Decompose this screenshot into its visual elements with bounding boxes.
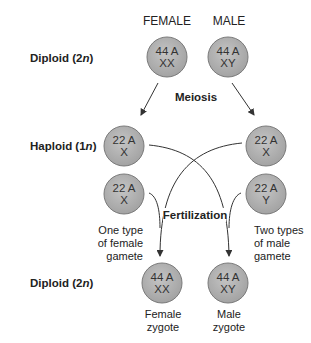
meiosis-label: Meiosis (175, 91, 217, 103)
svg-text:XX: XX (159, 57, 175, 69)
row-label-diploid-top: Diploid (2n) (30, 52, 93, 64)
fertilization-line-maley (229, 193, 241, 228)
cell-male-zygote: 44 A XY (208, 263, 248, 303)
svg-text:of female: of female (98, 237, 143, 249)
fertilization-label: Fertilization (163, 209, 228, 221)
svg-text:XY: XY (220, 283, 236, 295)
cell-female-gamete-1: 22 A X (104, 126, 144, 166)
svg-text:22 A: 22 A (112, 182, 135, 194)
svg-text:22 A: 22 A (254, 182, 277, 194)
svg-text:X: X (120, 194, 128, 206)
svg-text:One type: One type (98, 224, 143, 236)
svg-text:22 A: 22 A (254, 134, 277, 146)
note-male-gamete: Two types of male gamete (254, 224, 304, 262)
meiosis-arrow-male (232, 83, 254, 115)
svg-text:44 A: 44 A (155, 45, 178, 57)
svg-text:XX: XX (154, 283, 170, 295)
cell-male-parent: 44 A XY (208, 37, 248, 77)
fertilization-line-female2 (149, 193, 160, 228)
svg-text:X: X (262, 146, 270, 158)
fertilization-line-malex-to-female-zygote (160, 143, 242, 256)
svg-text:zygote: zygote (213, 321, 245, 333)
svg-text:X: X (120, 146, 128, 158)
cell-female-zygote: 44 A XX (142, 263, 182, 303)
svg-text:Two types: Two types (254, 224, 304, 236)
sex-determination-diagram: FEMALE MALE Diploid (2n) Haploid (1n) Di… (0, 0, 311, 343)
svg-text:XY: XY (220, 57, 236, 69)
svg-text:Y: Y (262, 194, 270, 206)
cell-male-gamete-y: 22 A Y (246, 174, 286, 214)
svg-text:of male: of male (254, 237, 290, 249)
row-label-haploid: Haploid (1n) (30, 140, 97, 152)
svg-text:22 A: 22 A (112, 134, 135, 146)
svg-text:44 A: 44 A (150, 271, 173, 283)
svg-text:gamete: gamete (106, 250, 143, 262)
cell-male-gamete-x: 22 A X (246, 126, 286, 166)
svg-text:Female: Female (145, 308, 182, 320)
cell-female-parent: 44 A XX (147, 37, 187, 77)
svg-text:zygote: zygote (147, 321, 179, 333)
female-column-header: FEMALE (143, 14, 191, 28)
meiosis-arrow-female (141, 83, 158, 115)
row-label-diploid-bottom: Diploid (2n) (30, 277, 93, 289)
svg-text:Male: Male (217, 308, 241, 320)
svg-text:gamete: gamete (254, 250, 291, 262)
cell-female-gamete-2: 22 A X (104, 174, 144, 214)
note-female-gamete: One type of female gamete (98, 224, 143, 262)
svg-text:44 A: 44 A (216, 271, 239, 283)
note-female-zygote: Female zygote (145, 308, 182, 333)
male-column-header: MALE (213, 14, 246, 28)
svg-text:44 A: 44 A (216, 45, 239, 57)
note-male-zygote: Male zygote (213, 308, 245, 333)
